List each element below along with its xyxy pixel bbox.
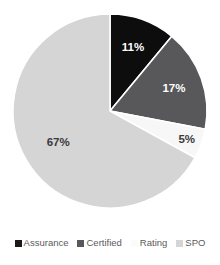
legend-swatch-spo — [176, 240, 183, 247]
pie-data-label-certified: 17% — [162, 82, 185, 94]
legend-label-certified: Certified — [86, 238, 121, 248]
pie-data-label-assurance: 11% — [122, 41, 144, 53]
pie-chart: 11%17%5%67% Assurance Certified Rating S… — [0, 0, 220, 265]
legend-item-rating[interactable]: Rating — [131, 238, 167, 248]
pie-svg: 11%17%5%67% — [0, 0, 220, 220]
pie-slice-group — [13, 14, 207, 208]
legend-swatch-assurance — [15, 240, 22, 247]
pie-data-label-spo: 67% — [47, 136, 70, 148]
legend-label-assurance: Assurance — [24, 238, 69, 248]
legend-swatch-rating — [131, 240, 138, 247]
legend-item-assurance[interactable]: Assurance — [15, 238, 69, 248]
chart-legend: Assurance Certified Rating SPO — [0, 234, 220, 252]
legend-swatch-certified — [77, 240, 84, 247]
legend-item-certified[interactable]: Certified — [77, 238, 121, 248]
pie-data-label-rating: 5% — [178, 133, 195, 145]
pie-plot-area: 11%17%5%67% — [0, 0, 220, 220]
legend-label-rating: Rating — [140, 238, 167, 248]
legend-label-spo: SPO — [185, 238, 205, 248]
legend-item-spo[interactable]: SPO — [176, 238, 205, 248]
